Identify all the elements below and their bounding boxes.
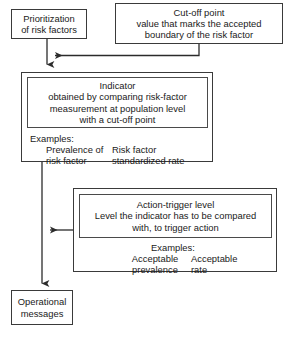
indicator-line-2: obtained by comparing risk-factor bbox=[48, 91, 187, 102]
action-trigger-example-column-1: Acceptable prevalence bbox=[119, 253, 191, 275]
action-trigger-line-1: Action-trigger level bbox=[137, 199, 215, 210]
prioritization-line-1: Prioritization bbox=[23, 13, 75, 24]
connector-layer bbox=[0, 0, 291, 338]
prioritization-line-2: of risk factors bbox=[21, 24, 77, 35]
indicator-line-1: Indicator bbox=[100, 80, 136, 91]
indicator-examples: Examples: Prevalence of risk factor Risk… bbox=[30, 133, 208, 166]
indicator-line-3: measurement at population level bbox=[50, 103, 186, 114]
cutoff-line-1: Cut-off point bbox=[174, 7, 225, 18]
node-prioritization: Prioritization of risk factors bbox=[11, 9, 87, 39]
action-trigger-line-2: Level the indicator has to be compared bbox=[95, 210, 257, 221]
action-trigger-example-column-2: Acceptable rate bbox=[191, 253, 261, 275]
flowchart-canvas: Prioritization of risk factors Cut-off p… bbox=[0, 0, 291, 338]
node-indicator: Indicator obtained by comparing risk-fac… bbox=[21, 72, 213, 162]
operational-line-1: Operational bbox=[18, 296, 66, 307]
action-trigger-examples-label: Examples: bbox=[68, 242, 278, 253]
edge-cutoff-to-prioritization bbox=[55, 44, 199, 56]
indicator-definition-box: Indicator obtained by comparing risk-fac… bbox=[27, 77, 208, 128]
indicator-example-column-2: Risk factor standardized rate bbox=[112, 144, 208, 166]
action-trigger-examples: Examples: Acceptable prevalence Acceptab… bbox=[74, 242, 278, 275]
indicator-line-4: with a cut-off point bbox=[80, 114, 156, 125]
node-action-trigger-level: Action-trigger level Level the indicator… bbox=[73, 188, 277, 272]
indicator-example-column-1: Prevalence of risk factor bbox=[46, 144, 112, 166]
cutoff-line-2: value that marks the accepted bbox=[136, 18, 261, 29]
node-cutoff-point: Cut-off point value that marks the accep… bbox=[115, 3, 283, 44]
indicator-examples-columns: Prevalence of risk factor Risk factor st… bbox=[46, 144, 208, 166]
indicator-examples-label: Examples: bbox=[30, 133, 208, 144]
node-operational-messages: Operational messages bbox=[11, 290, 73, 325]
action-trigger-definition-box: Action-trigger level Level the indicator… bbox=[79, 194, 272, 238]
action-trigger-line-3: with, to trigger action bbox=[132, 222, 219, 233]
operational-line-2: messages bbox=[21, 308, 64, 319]
cutoff-line-3: boundary of the risk factor bbox=[145, 29, 253, 40]
action-trigger-examples-columns: Acceptable prevalence Acceptable rate bbox=[119, 253, 278, 275]
